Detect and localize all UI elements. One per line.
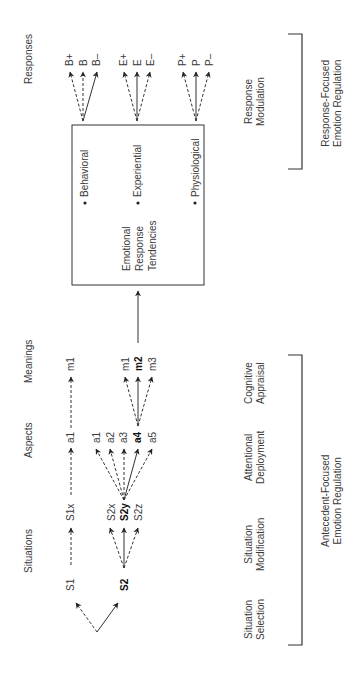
label-b-minus: B– (91, 54, 102, 66)
label-s1x: S1x (65, 504, 76, 521)
stage-cognitive-appraisal: Cognitive Appraisal (243, 362, 267, 404)
stage-situation-selection: Situation Selection (243, 599, 267, 640)
label-a1-top: a1 (65, 432, 76, 443)
arrow-s2-s2z (124, 528, 138, 568)
bullet-behavioral (83, 201, 86, 204)
arrow-select-s2 (97, 603, 118, 632)
arrow-s2-s2x (110, 528, 124, 568)
arrow-a4-m3 (138, 377, 152, 426)
stage-attentional-deployment: Attentional Deployment (243, 431, 267, 484)
arrow-p-plus (183, 72, 196, 121)
bracket-label-response-focused: Response-Focused Emotion Regulation (320, 60, 344, 147)
box-item-behavioral: Behavioral (79, 150, 90, 197)
arrow-e-plus (124, 72, 137, 121)
box-title-line-3: Tendencies (146, 220, 159, 271)
arrow-b-minus (83, 72, 97, 121)
label-e: E (132, 59, 143, 66)
bracket-response-focused (288, 34, 302, 169)
label-m1-top: m1 (65, 357, 76, 371)
box-title-line-2: Response (133, 220, 146, 271)
arrow-p-minus (196, 72, 209, 121)
label-p-minus: P– (204, 54, 215, 66)
header-meanings: Meanings (23, 340, 35, 383)
stage-response-modulation: Response Modulation (243, 77, 267, 126)
arrow-s2y-a5 (124, 449, 152, 500)
bracket-label-antecedent-focused: Antecedent-Focused Emotion Regulation (320, 455, 344, 547)
bullet-physiological (193, 201, 196, 204)
header-aspects: Aspects (23, 422, 35, 458)
box-title-line-1: Emotional (120, 220, 133, 271)
arrow-e-minus (137, 72, 150, 121)
label-s2: S2 (119, 579, 130, 591)
label-m2: m2 (133, 357, 144, 371)
label-a5: a5 (147, 432, 158, 443)
label-s1: S1 (65, 579, 76, 591)
label-a2: a2 (105, 432, 116, 443)
label-e-minus: E– (145, 54, 156, 66)
bullet-experiential (136, 201, 139, 204)
label-m1: m1 (120, 357, 131, 371)
arrow-b-plus (70, 72, 83, 121)
label-s2x: S2x (106, 504, 117, 521)
label-m3: m3 (147, 357, 158, 371)
label-p-plus: P+ (177, 53, 188, 66)
header-situations: Situations (23, 529, 35, 573)
stage-situation-modification: Situation Modification (243, 518, 267, 571)
arrow-a4-m1 (125, 377, 138, 426)
arrow-s2y-a4 (124, 449, 138, 500)
diagram-lines (0, 0, 363, 696)
label-b-plus: B+ (64, 53, 75, 66)
arrow-s2y-a2 (110, 449, 124, 500)
header-responses: Responses (23, 34, 35, 84)
box-item-experiential: Experiential (132, 145, 143, 197)
label-s2z: S2z (133, 504, 144, 521)
label-a3: a3 (118, 432, 129, 443)
label-p: P (191, 59, 202, 66)
label-a1: a1 (91, 432, 102, 443)
label-b: B (78, 59, 89, 66)
box-item-physiological: Physiological (190, 139, 201, 197)
box-title: Emotional Response Tendencies (120, 220, 159, 271)
label-a4: a4 (132, 432, 143, 443)
label-s2y: S2y (119, 503, 130, 521)
arrow-s2y-a1 (96, 449, 124, 500)
bracket-antecedent-focused (288, 355, 302, 645)
arrow-select-s1 (76, 603, 97, 632)
label-e-plus: E+ (118, 53, 129, 66)
